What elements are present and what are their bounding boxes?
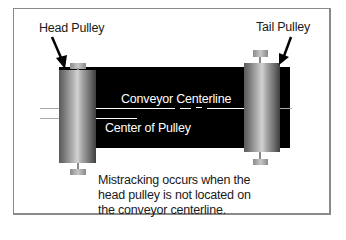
caption-line: the conveyor centerline. xyxy=(98,203,251,218)
tail-pulley-bottom-cap xyxy=(253,159,268,165)
conveyor-centerline-ext-left xyxy=(40,108,59,109)
center-of-pulley-label: Center of Pulley xyxy=(105,121,191,135)
tail-pulley xyxy=(244,63,280,152)
caption-line: head pulley is not located on xyxy=(98,188,251,203)
center-of-pulley-line xyxy=(95,118,137,119)
head-pulley xyxy=(59,70,96,163)
conveyor-centerline-right xyxy=(207,108,244,109)
head-pulley-arrow-icon xyxy=(50,36,70,70)
caption-line: Mistracking occurs when the xyxy=(98,173,251,188)
center-of-pulley-line-ext xyxy=(40,118,59,119)
conveyor-centerline-label: Conveyor Centerline xyxy=(121,92,231,106)
conveyor-centerline-ext xyxy=(280,108,292,109)
head-pulley-bottom-cap xyxy=(70,169,86,175)
tail-pulley-top-cap xyxy=(253,50,268,57)
conveyor-centerline xyxy=(95,108,175,109)
conveyor-centerline-mid xyxy=(196,107,202,108)
conveyor-centerline-mid xyxy=(180,108,191,109)
tail-pulley-arrow-icon xyxy=(276,36,294,66)
tail-pulley-label: Tail Pulley xyxy=(256,20,310,34)
caption: Mistracking occurs when the head pulley … xyxy=(98,173,251,218)
head-pulley-label: Head Pulley xyxy=(39,21,104,35)
